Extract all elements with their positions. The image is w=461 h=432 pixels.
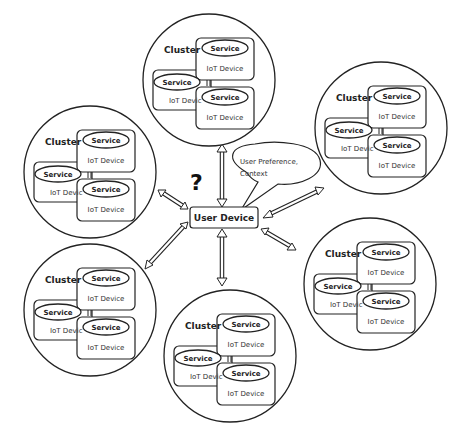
cluster-right: Cluster Service IoT Device Service IoT D… [304,218,436,350]
service-label: Service [91,324,120,332]
arrow-to-right-cluster [261,228,296,250]
cluster-top: Cluster Service IoT Device Service IoT D… [143,14,275,146]
iot-device-label: IoT Device [379,162,416,170]
arrow-to-top-right-cluster [263,187,324,218]
cluster-bottom-left: Cluster Service IoT Device Service IoT D… [24,244,156,376]
service-label: Service [334,127,363,135]
cluster-bottom: Cluster Service IoT Device Service IoT D… [164,290,296,422]
service-label: Service [43,309,72,317]
service-label: Service [231,321,260,329]
iot-device-label: IoT Device [207,114,244,122]
question-mark: ? [190,170,203,195]
cluster-label: Cluster [185,321,222,331]
arrow-to-top-cluster [217,144,227,207]
cluster-label: Cluster [336,93,373,103]
speech-bubble: User Preference, Context [233,142,321,210]
cluster-label: Cluster [325,249,362,259]
service-label: Service [162,79,191,87]
service-label: Service [371,298,400,306]
service-label: Service [91,275,120,283]
arrow-to-left-cluster [158,190,188,209]
iot-device-label: IoT Devic [50,327,83,335]
cluster-label: Cluster [45,275,82,285]
iot-device-label: IoT Device [368,269,405,277]
arrow-to-bottom-left-cluster [145,222,188,269]
service-label: Service [183,355,212,363]
service-label: Service [43,171,72,179]
iot-device-label: IoT Device [207,65,244,73]
service-label: Service [382,93,411,101]
service-label: Service [323,283,352,291]
iot-device-label: IoT Devic [190,373,223,381]
iot-device-label: IoT Device [88,344,125,352]
service-label: Service [371,249,400,257]
arrow-to-bottom-cluster [217,229,227,286]
service-label: Service [210,45,239,53]
iot-device-label: IoT Device [88,206,125,214]
cluster-label: Cluster [45,137,82,147]
cluster-top-right: Cluster Service IoT Device Service IoT D… [315,62,447,194]
user-device-label: User Device [194,213,254,223]
service-label: Service [231,370,260,378]
service-label: Service [382,142,411,150]
iot-cluster-diagram: Cluster Service IoT Device Service IoT D… [0,0,461,432]
iot-device-label: IoT Device [228,390,265,398]
user-device-node: User Device [190,207,258,228]
iot-device-label: IoT Device [379,113,416,121]
iot-device-label: IoT Device [88,295,125,303]
service-label: Service [91,137,120,145]
iot-device-label: IoT Devic [50,189,83,197]
service-label: Service [91,186,120,194]
service-label: Service [210,94,239,102]
iot-device-label: IoT Devic [330,301,363,309]
cluster-label: Cluster [164,45,201,55]
iot-device-label: IoT Devic [341,145,374,153]
iot-device-label: IoT Device [228,341,265,349]
cluster-left: Cluster Service IoT Device Service IoT D… [24,106,156,238]
iot-device-label: IoT Device [368,318,405,326]
iot-device-label: IoT Devic [169,97,202,105]
speech-bubble-line2: Context [240,170,268,178]
iot-device-label: IoT Device [88,157,125,165]
speech-bubble-line1: User Preference, [240,158,298,166]
